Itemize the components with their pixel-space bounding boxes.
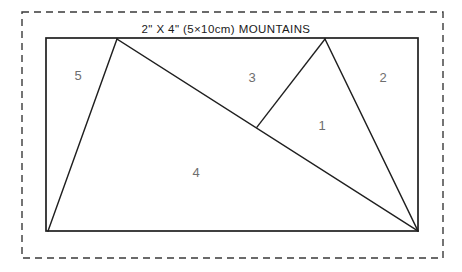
- block-rectangle: [46, 38, 418, 231]
- page-title: 2" X 4" (5×10cm) MOUNTAINS: [142, 23, 311, 35]
- region-label-2: 2: [379, 70, 386, 85]
- mountains-pattern-diagram: 2" X 4" (5×10cm) MOUNTAINS 5 3 2 1 4: [0, 0, 462, 272]
- diagram-page: 2" X 4" (5×10cm) MOUNTAINS 5 3 2 1 4: [0, 0, 462, 272]
- region-label-5: 5: [74, 68, 81, 83]
- region-label-1: 1: [318, 118, 325, 133]
- region-label-4: 4: [192, 165, 199, 180]
- region-label-3: 3: [248, 70, 255, 85]
